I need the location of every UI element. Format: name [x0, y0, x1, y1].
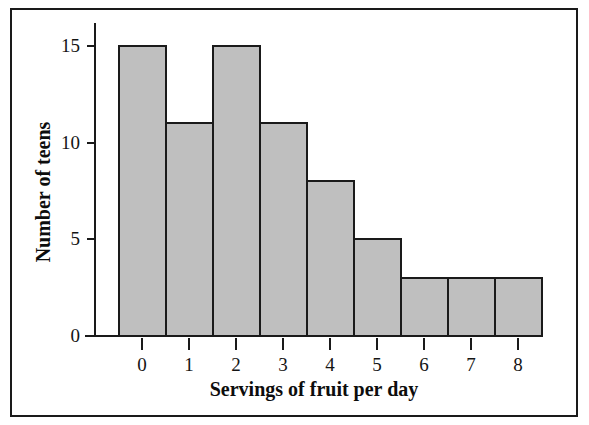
bars-group: [119, 46, 542, 336]
bar-0: [119, 46, 166, 336]
x-tick-label-4: 4: [325, 354, 335, 375]
x-tick-label-0: 0: [137, 354, 147, 375]
x-tick-label-7: 7: [466, 354, 476, 375]
bar-8: [495, 278, 542, 336]
bar-4: [307, 181, 354, 336]
bar-1: [166, 123, 213, 336]
x-axis-title: Servings of fruit per day: [210, 378, 419, 401]
bar-5: [354, 239, 401, 336]
x-tick-label-2: 2: [231, 354, 241, 375]
x-tick-label-8: 8: [513, 354, 523, 375]
x-tick-label-6: 6: [419, 354, 429, 375]
x-ticks-group: 012345678: [137, 338, 523, 375]
chart-plot-area: 051015 012345678 Number of teens Serving…: [0, 0, 589, 425]
y-tick-label-10: 10: [61, 132, 80, 153]
y-ticks-group: 051015: [61, 35, 95, 346]
y-tick-label-5: 5: [71, 228, 81, 249]
bar-6: [401, 278, 448, 336]
bar-3: [260, 123, 307, 336]
bar-2: [213, 46, 260, 336]
x-tick-label-1: 1: [184, 354, 194, 375]
y-tick-label-0: 0: [71, 325, 81, 346]
x-tick-label-5: 5: [372, 354, 382, 375]
y-axis-title: Number of teens: [32, 121, 54, 262]
histogram-figure: 051015 012345678 Number of teens Serving…: [0, 0, 589, 425]
x-tick-label-3: 3: [278, 354, 288, 375]
y-tick-label-15: 15: [61, 35, 80, 56]
bar-7: [448, 278, 495, 336]
